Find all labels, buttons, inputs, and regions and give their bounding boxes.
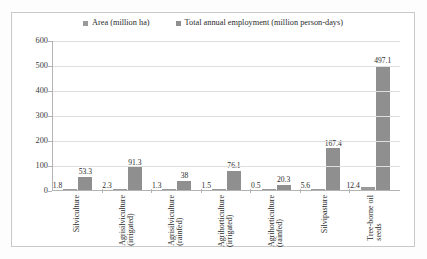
x-axis-category-label: Silvipasture [321, 195, 329, 233]
gridline [53, 141, 400, 142]
x-axis-label-cell: Agrihorticulture(irrigated) [201, 193, 251, 259]
bar-area: 5.6 [311, 189, 325, 190]
legend-label-area: Area (million ha) [92, 19, 150, 27]
bar-value-label: 497.1 [374, 57, 391, 65]
legend-swatch-area [83, 21, 88, 26]
bar-value-label: 1.5 [202, 182, 212, 190]
bar-area: 0.5 [262, 189, 276, 190]
legend-entry-employment: Total annual employment (million person-… [176, 19, 343, 27]
x-axis-category-label: Agrihorticulture(irrigated) [218, 195, 235, 247]
bar-area: 1.8 [63, 189, 77, 190]
x-axis-label-cell: Agrisilviculture(irrigated) [102, 193, 152, 259]
legend-entry-area: Area (million ha) [83, 19, 150, 27]
bar-employment: 497.1 [376, 66, 390, 190]
y-axis-tick-label: 200 [14, 137, 48, 145]
x-axis-label-cell: Agrisilviculture(rainfed) [151, 193, 201, 259]
bar-employment: 91.3 [128, 167, 142, 190]
x-axis-label-cell: Tree-borne oilseeds [350, 193, 400, 259]
bar-value-label: 1.3 [152, 182, 162, 190]
chart-legend: Area (million ha) Total annual employmen… [12, 19, 414, 27]
x-axis-label-cell: Agrihorticulture(rainfed) [251, 193, 301, 259]
bar-value-label: 20.3 [277, 176, 290, 184]
x-axis-category-label: Agrihorticulture(rainfed) [267, 195, 284, 247]
x-axis-category-label: Agrisilviculture(rainfed) [168, 195, 185, 246]
bar-employment: 38 [177, 181, 191, 191]
x-axis-label-cell: Silviculture [52, 193, 102, 259]
bar-area: 2.3 [113, 189, 127, 190]
y-axis: 0100200300400500600 [12, 41, 48, 191]
bar-area: 12.4 [361, 187, 375, 190]
chart-frame: Area (million ha) Total annual employmen… [11, 12, 415, 247]
x-axis-labels: SilvicultureAgrisilviculture(irrigated)A… [52, 193, 400, 259]
bar-employment: 167.4 [326, 148, 340, 190]
bar-value-label: 5.6 [301, 182, 311, 190]
bar-area: 1.5 [212, 189, 226, 190]
bar-value-label: 1.8 [53, 182, 63, 190]
x-axis-category-label: Agrisilviculture(irrigated) [118, 195, 135, 246]
legend-label-employment: Total annual employment (million person-… [185, 19, 343, 27]
legend-swatch-employment [176, 21, 181, 26]
bar-value-label: 38 [181, 172, 189, 180]
plot-area: 1.853.32.391.31.3381.576.10.520.35.6167.… [52, 41, 400, 191]
y-axis-tick-label: 600 [14, 37, 48, 45]
bar-employment: 20.3 [277, 185, 291, 190]
gridline [53, 166, 400, 167]
x-axis-category-label: Tree-borne oilseeds [367, 195, 384, 241]
bar-value-label: 12.4 [346, 182, 359, 190]
y-axis-tick-label: 400 [14, 87, 48, 95]
bar-employment: 76.1 [227, 171, 241, 190]
y-axis-tick-mark [48, 191, 52, 192]
bar-area: 1.3 [162, 189, 176, 190]
x-axis-category-label: Silviculture [73, 195, 81, 232]
bar-value-label: 53.3 [79, 168, 92, 176]
gridline [53, 116, 400, 117]
y-axis-tick-label: 500 [14, 62, 48, 70]
gridline [53, 66, 400, 67]
bar-value-label: 2.3 [102, 182, 112, 190]
bar-employment: 53.3 [78, 177, 92, 190]
y-axis-tick-label: 0 [14, 187, 48, 195]
bar-value-label: 0.5 [251, 182, 261, 190]
gridline [53, 41, 400, 42]
chart-figure: Area (million ha) Total annual employmen… [0, 0, 427, 259]
y-axis-tick-label: 300 [14, 112, 48, 120]
x-axis-label-cell: Silvipasture [301, 193, 351, 259]
y-axis-tick-label: 100 [14, 162, 48, 170]
gridline [53, 91, 400, 92]
